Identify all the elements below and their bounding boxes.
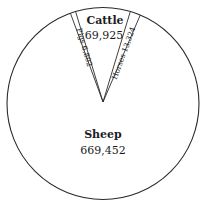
- slice-value-sheep: 669,452: [80, 144, 126, 157]
- slice-value-cattle: 69,925: [85, 29, 124, 42]
- slice-label-sheep: Sheep: [84, 128, 122, 141]
- slice-label-cattle: Cattle: [86, 14, 123, 27]
- pie-chart: Cattle 69,925 Sheep 669,452 Pigs 6,802 H…: [0, 0, 202, 207]
